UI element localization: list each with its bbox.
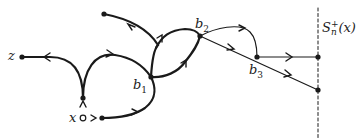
label-b1: b1: [133, 78, 147, 95]
node-end-1: [315, 54, 320, 59]
node-above-x: [80, 95, 85, 100]
path-b1-to-top-left: [104, 14, 158, 77]
node-b3: [254, 54, 259, 59]
label-x: x: [69, 111, 76, 124]
arrow-icon-upper-loop: [106, 50, 113, 57]
node-b1: [148, 74, 153, 79]
arrow-icon-x-up: [80, 101, 86, 107]
label-sphere-arg: (x): [338, 20, 355, 35]
node-b2: [197, 33, 202, 38]
arrow-icon-x-right: [91, 115, 96, 121]
node-z: [19, 54, 24, 59]
node-x-open: [80, 115, 86, 121]
label-b3-sub: 3: [257, 70, 263, 80]
label-z: z: [8, 49, 15, 62]
label-b2: b2: [195, 17, 209, 34]
path-above-x-to-z: [22, 57, 83, 98]
arrow-icon-b3-diag: [284, 70, 291, 77]
diagram-svg: [0, 0, 363, 140]
node-right-x: [99, 115, 104, 120]
arrow-icon-lower-loop: [131, 109, 138, 115]
node-top-left: [101, 11, 106, 16]
label-sphere-base: S: [322, 20, 331, 35]
diagram-canvas: z x b1 b2 b3 S+n(x): [0, 0, 363, 140]
label-b3: b3: [249, 63, 263, 80]
label-b1-sub: 1: [141, 85, 147, 95]
label-sphere: S+n(x): [322, 20, 356, 36]
node-end-2: [315, 87, 320, 92]
label-b2-sub: 2: [203, 24, 209, 34]
